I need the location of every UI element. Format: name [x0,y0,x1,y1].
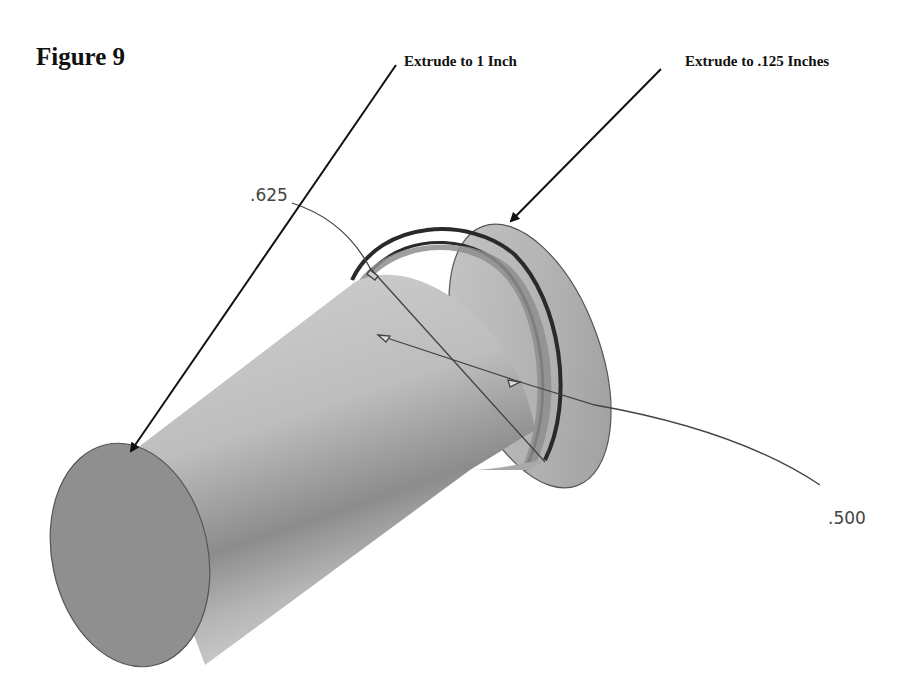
dimension-625: .625 [250,185,288,205]
cad-drawing [0,0,919,698]
main-cylinder [30,275,545,682]
figure-title: Figure 9 [36,43,125,71]
callout-extrude-1-inch: Extrude to 1 Inch [404,53,517,70]
callout-extrude-125-inches: Extrude to .125 Inches [685,53,829,70]
dimension-500: .500 [828,508,866,528]
callout-leader-flange [511,69,661,221]
